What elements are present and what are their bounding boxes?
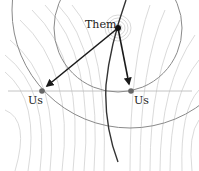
them-us-diagram: Them Us Us	[0, 0, 199, 171]
label-us-left: Us	[28, 94, 43, 107]
label-them: Them	[85, 18, 117, 31]
point-us-left	[39, 88, 45, 94]
point-us-right	[128, 88, 134, 94]
label-us-right: Us	[134, 94, 149, 107]
circle-near	[54, 0, 182, 92]
